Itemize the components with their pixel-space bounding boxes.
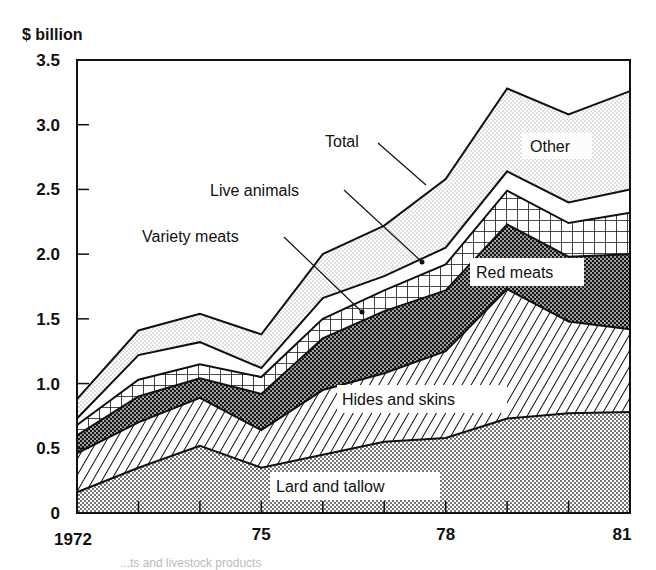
svg-text:Live animals: Live animals xyxy=(210,182,299,199)
y-tick-label: 0.5 xyxy=(36,439,60,458)
x-tick-label: 1972 xyxy=(54,530,92,549)
x-tick-label: 75 xyxy=(252,525,271,544)
svg-text:Hides and skins: Hides and skins xyxy=(342,391,455,408)
y-tick-label: 0 xyxy=(51,504,60,523)
label-hides-and-skins: Hides and skins xyxy=(337,385,507,413)
stacked-area-chart: 00.51.01.52.02.53.03.5 1972757881 $ bill… xyxy=(0,0,656,570)
unit-label: $ billion xyxy=(22,26,82,43)
x-tick-label: 81 xyxy=(613,525,632,544)
svg-text:Variety meats: Variety meats xyxy=(142,228,239,245)
y-tick-label: 3.0 xyxy=(36,116,60,135)
svg-text:Total: Total xyxy=(325,133,359,150)
y-tick-label: 1.5 xyxy=(36,310,60,329)
y-tick-label: 1.0 xyxy=(36,375,60,394)
figure-caption: ...ts and livestock products xyxy=(120,556,261,570)
label-other: Other xyxy=(522,133,592,159)
y-tick-label: 2.5 xyxy=(36,180,60,199)
svg-text:Lard and tallow: Lard and tallow xyxy=(276,478,385,495)
y-tick-label: 3.5 xyxy=(36,51,60,70)
svg-text:Red meats: Red meats xyxy=(476,264,553,281)
svg-text:Other: Other xyxy=(530,138,571,155)
label-total: Total xyxy=(325,133,426,185)
label-red-meats: Red meats xyxy=(470,258,584,286)
label-lard-and-tallow: Lard and tallow xyxy=(270,472,440,500)
y-tick-label: 2.0 xyxy=(36,245,60,264)
x-tick-label: 78 xyxy=(436,525,455,544)
